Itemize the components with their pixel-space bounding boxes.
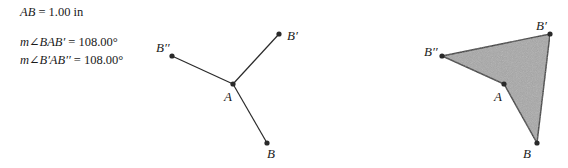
- label-a-right: A: [493, 89, 502, 104]
- label-a-left: A: [223, 89, 232, 104]
- geometry-canvas: A B B′ B′′ A B B′ B′′: [0, 0, 568, 168]
- point-a-left[interactable]: [230, 81, 235, 86]
- point-b1-left[interactable]: [276, 31, 281, 36]
- point-b-right[interactable]: [534, 140, 539, 145]
- label-b1-right: B′: [536, 18, 547, 33]
- point-a-right[interactable]: [501, 81, 506, 86]
- segment-ab: [233, 84, 267, 143]
- label-b-left: B: [267, 146, 275, 161]
- label-b2-right: B′′: [424, 44, 438, 59]
- point-b1-right[interactable]: [547, 31, 552, 36]
- point-b2-right[interactable]: [439, 53, 444, 58]
- segment-ab1: [233, 34, 279, 84]
- segment-ab2: [172, 56, 233, 84]
- label-b-right: B: [523, 146, 531, 161]
- point-b-left[interactable]: [264, 140, 269, 145]
- point-b2-left[interactable]: [169, 53, 174, 58]
- label-b1-left: B′: [287, 28, 298, 43]
- label-b2-left: B′′: [156, 40, 170, 55]
